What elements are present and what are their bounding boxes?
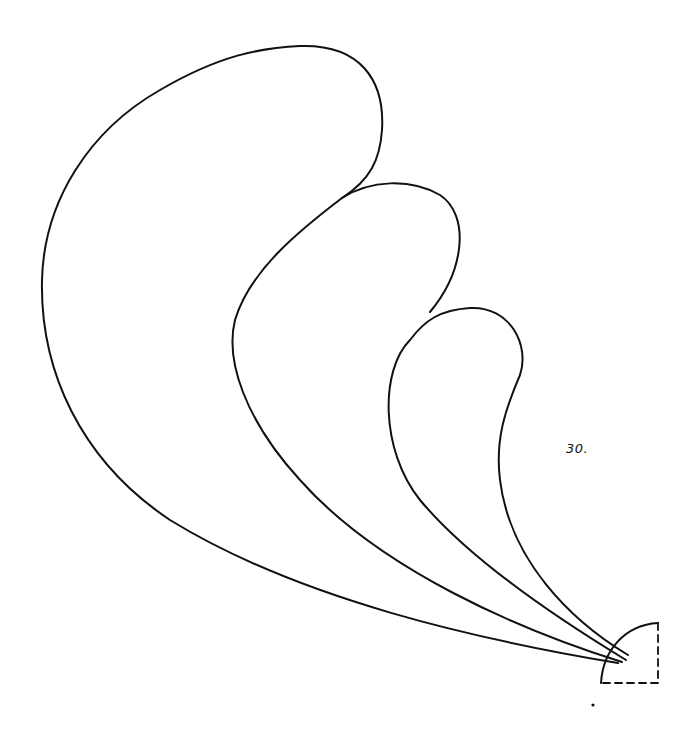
- page-number-label: 30.: [566, 441, 588, 456]
- quarter-circle-base: [601, 623, 658, 683]
- large-plume: [42, 46, 618, 663]
- medium-plume: [233, 183, 622, 662]
- small-plume: [389, 308, 628, 660]
- plume-pattern-drawing: [0, 0, 696, 732]
- ink-dot: [591, 703, 594, 706]
